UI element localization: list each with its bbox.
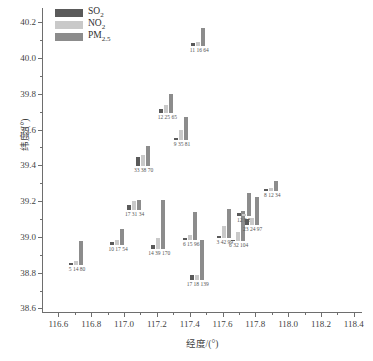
x-tick xyxy=(157,313,158,317)
x-tick-label: 116.8 xyxy=(81,319,101,329)
glyph-bar-pm2-5 xyxy=(184,117,188,140)
glyph-bar-pm2-5 xyxy=(79,241,83,264)
glyph-bar-so2 xyxy=(245,219,249,226)
data-point-glyph: 11 16 64 xyxy=(191,4,207,46)
x-axis-title: 经度/(°) xyxy=(42,336,362,350)
glyph-bar-no2 xyxy=(115,240,119,245)
legend-swatch-pm25 xyxy=(55,33,83,41)
y-tick xyxy=(38,165,42,166)
glyph-bar-pm2-5 xyxy=(146,146,150,166)
x-tick-label: 117.0 xyxy=(114,319,134,329)
x-tick xyxy=(91,313,92,317)
data-point-glyph: 17 18 139 xyxy=(190,238,206,280)
x-tick xyxy=(354,313,355,317)
glyph-bar-group xyxy=(69,241,83,264)
legend-item-no2: NO2 xyxy=(55,19,110,30)
data-point-glyph: 33 38 70 xyxy=(136,124,152,166)
y-tick-label: 38.6 xyxy=(20,303,36,313)
y-tick-label: 39.2 xyxy=(20,196,36,206)
x-tick-label: 117.8 xyxy=(245,319,265,329)
glyph-bar-group xyxy=(217,209,231,238)
glyph-bar-no2 xyxy=(164,105,168,112)
x-tick-minor xyxy=(305,313,306,315)
glyph-bar-so2 xyxy=(127,205,131,210)
glyph-value-label: 5 14 80 xyxy=(69,266,86,272)
glyph-bar-group xyxy=(264,181,278,191)
glyph-bar-no2 xyxy=(250,218,254,225)
y-tick-minor xyxy=(40,183,42,184)
data-point-glyph: 10 17 54 xyxy=(110,203,126,245)
plot-area: 38.638.839.039.239.439.639.840.040.2 116… xyxy=(42,8,362,312)
x-tick-minor xyxy=(337,313,338,315)
glyph-value-label: 10 17 54 xyxy=(108,246,127,252)
x-tick-label: 117.4 xyxy=(180,319,200,329)
y-tick xyxy=(38,58,42,59)
y-tick xyxy=(38,130,42,131)
glyph-bar-group xyxy=(191,28,205,47)
y-tick xyxy=(38,22,42,23)
y-axis-title: 纬度/(°) xyxy=(17,105,31,165)
glyph-bar-so2 xyxy=(191,43,195,46)
y-tick-minor xyxy=(40,147,42,148)
y-tick xyxy=(38,237,42,238)
x-tick-label: 118.0 xyxy=(278,319,298,329)
x-tick-minor xyxy=(239,313,240,315)
glyph-bar-pm2-5 xyxy=(193,212,197,240)
y-tick-label: 40.0 xyxy=(20,53,36,63)
glyph-bar-no2 xyxy=(236,232,240,241)
y-tick-minor xyxy=(40,112,42,113)
y-tick xyxy=(38,273,42,274)
y-tick-label: 40.2 xyxy=(20,17,36,27)
scatter-bar-chart: SO2 NO2 PM2.5 38.638.839.039.239.439.639… xyxy=(0,0,373,361)
glyph-bar-no2 xyxy=(195,275,199,280)
y-tick-minor xyxy=(40,219,42,220)
glyph-bar-group xyxy=(136,146,150,166)
glyph-value-label: 9 35 81 xyxy=(174,141,191,147)
glyph-bar-pm2-5 xyxy=(169,94,173,113)
glyph-bar-group xyxy=(174,117,188,140)
x-tick-label: 117.2 xyxy=(147,319,167,329)
glyph-bar-no2 xyxy=(74,261,78,265)
y-tick-minor xyxy=(40,291,42,292)
data-point-glyph: 12 25 65 xyxy=(159,71,175,113)
x-tick xyxy=(190,313,191,317)
glyph-bar-group xyxy=(159,94,173,113)
data-point-glyph: 8 12 34 xyxy=(264,149,280,191)
glyph-bar-so2 xyxy=(110,242,114,245)
glyph-bar-group xyxy=(151,200,165,249)
glyph-bar-no2 xyxy=(222,226,226,238)
legend-item-so2: SO2 xyxy=(55,7,110,18)
x-tick-label: 118.4 xyxy=(344,319,364,329)
glyph-value-label: 17 18 139 xyxy=(187,281,209,287)
glyph-bar-no2 xyxy=(132,201,136,210)
glyph-bar-no2 xyxy=(179,130,183,140)
legend-label-so2: SO2 xyxy=(88,6,104,19)
glyph-bar-group xyxy=(245,197,259,225)
x-axis-line xyxy=(42,312,362,313)
x-tick xyxy=(255,313,256,317)
glyph-bar-pm2-5 xyxy=(137,200,141,210)
x-tick xyxy=(58,313,59,317)
glyph-bar-pm2-5 xyxy=(274,181,278,191)
glyph-bar-so2 xyxy=(183,238,187,240)
data-point-glyph: 5 14 80 xyxy=(69,223,85,265)
glyph-bar-so2 xyxy=(190,275,194,280)
legend-swatch-no2 xyxy=(55,21,83,29)
x-tick xyxy=(124,313,125,317)
glyph-bar-no2 xyxy=(196,42,200,47)
data-point-glyph: 17 31 34 xyxy=(127,168,143,210)
y-tick xyxy=(38,201,42,202)
y-tick-label: 39.8 xyxy=(20,89,36,99)
x-tick-label: 118.2 xyxy=(311,319,331,329)
x-tick-label: 116.6 xyxy=(48,319,68,329)
glyph-bar-no2 xyxy=(141,155,145,166)
glyph-bar-so2 xyxy=(237,213,241,216)
glyph-bar-so2 xyxy=(264,189,268,191)
glyph-bar-so2 xyxy=(217,236,221,238)
glyph-bar-group xyxy=(127,200,141,210)
glyph-value-label: 17 31 34 xyxy=(125,211,144,217)
data-point-glyph: 23 24 97 xyxy=(245,183,261,225)
glyph-bar-pm2-5 xyxy=(161,200,165,249)
y-tick-label: 38.8 xyxy=(20,268,36,278)
x-tick-minor xyxy=(272,313,273,315)
